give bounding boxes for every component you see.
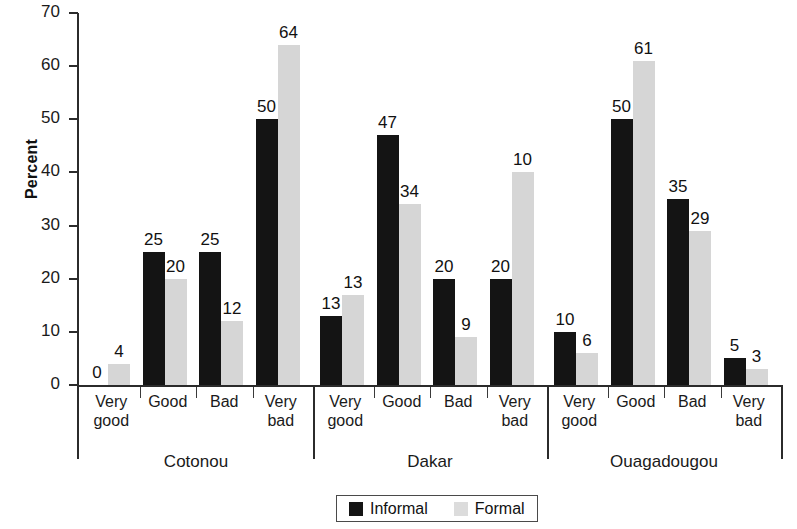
legend-item-formal: Formal	[454, 500, 525, 518]
bar	[108, 364, 130, 385]
category-label: Verybad	[481, 392, 550, 430]
legend-swatch-informal	[349, 502, 363, 516]
bar-value-label: 29	[680, 209, 720, 229]
bar	[221, 321, 243, 385]
category-label: Verybad	[247, 392, 316, 430]
y-tick-10	[69, 331, 78, 333]
bar-value-label: 25	[190, 230, 230, 250]
y-tick-label-0: 0	[14, 374, 60, 394]
bar-value-label: 34	[390, 182, 430, 202]
bar-value-label: 20	[424, 257, 464, 277]
y-tick-20	[69, 278, 78, 280]
y-tick-label-30: 30	[14, 215, 60, 235]
bar-value-label: 61	[624, 39, 664, 59]
bar	[256, 119, 278, 385]
y-tick-50	[69, 118, 78, 120]
legend: Informal Formal	[336, 495, 538, 522]
bar	[633, 61, 655, 385]
bar	[377, 135, 399, 385]
bar-value-label: 20	[156, 257, 196, 277]
y-tick-label-10: 10	[14, 321, 60, 341]
y-tick-label-70: 70	[14, 2, 60, 22]
y-tick-40	[69, 171, 78, 173]
bar-value-label: 4	[99, 342, 139, 362]
bar-value-label: 6	[567, 331, 607, 351]
bar-value-label: 3	[737, 347, 777, 367]
group-separator	[547, 387, 549, 459]
y-tick-label-50: 50	[14, 108, 60, 128]
bar-value-label: 64	[269, 23, 309, 43]
bar-value-label: 35	[658, 177, 698, 197]
bar	[490, 279, 512, 385]
bar-value-label: 10	[545, 310, 585, 330]
bar	[512, 172, 534, 385]
legend-swatch-formal	[454, 502, 468, 516]
legend-label-formal: Formal	[475, 500, 525, 518]
group-separator	[313, 387, 315, 459]
group-label-ouagadougou: Ouagadougou	[547, 452, 781, 472]
bar-value-label: 9	[446, 315, 486, 335]
bar-value-label: 13	[333, 273, 373, 293]
bar-value-label: 12	[212, 299, 252, 319]
y-tick-label-20: 20	[14, 268, 60, 288]
group-label-dakar: Dakar	[313, 452, 547, 472]
bar	[399, 204, 421, 385]
legend-label-informal: Informal	[370, 500, 428, 518]
bar	[689, 231, 711, 385]
bar-value-label: 47	[368, 113, 408, 133]
y-tick-30	[69, 225, 78, 227]
bar	[576, 353, 598, 385]
bar-value-label: 25	[134, 230, 174, 250]
bar-value-label: 10	[503, 150, 543, 170]
y-tick-label-40: 40	[14, 161, 60, 181]
bar	[320, 316, 342, 385]
category-label: Verybad	[715, 392, 784, 430]
bar	[611, 119, 633, 385]
legend-item-informal: Informal	[349, 500, 428, 518]
bar	[455, 337, 477, 385]
bar-chart: Percent 010203040506070 0425202512506413…	[0, 0, 797, 529]
y-tick-70	[69, 12, 78, 14]
bar	[342, 295, 364, 385]
y-tick-60	[69, 65, 78, 67]
bar	[746, 369, 768, 385]
y-tick-label-60: 60	[14, 55, 60, 75]
bar	[165, 279, 187, 385]
bar	[278, 45, 300, 385]
group-label-cotonou: Cotonou	[79, 452, 313, 472]
